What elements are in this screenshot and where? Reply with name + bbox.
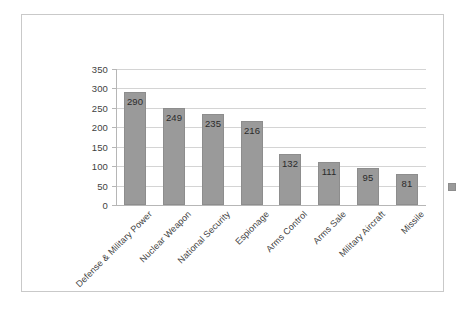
bar[interactable]: 132: [279, 154, 301, 205]
chart-frame: 2902492352161321119581 35030025020015010…: [21, 14, 444, 292]
bar[interactable]: 95: [357, 168, 379, 205]
x-axis-category-label: Arms Sale: [311, 209, 348, 246]
y-axis-tick-label: 150: [92, 142, 108, 153]
y-axis-tick-label: 300: [92, 83, 108, 94]
y-axis-tick-mark: [112, 166, 116, 167]
y-axis-tick-mark: [112, 108, 116, 109]
y-axis-tick-label: 100: [92, 161, 108, 172]
y-axis-tick-label: 0: [103, 200, 108, 211]
x-axis-category-labels: Defense & Military PowerNuclear WeaponNa…: [116, 209, 426, 299]
plot-area: 2902492352161321119581: [116, 69, 426, 205]
legend-color-swatch: [448, 183, 456, 191]
bar-value-label: 216: [242, 125, 262, 136]
gridline: [116, 69, 426, 70]
bar-value-label: 81: [397, 178, 417, 189]
y-axis-line: [116, 69, 117, 206]
y-axis-tick-label: 200: [92, 122, 108, 133]
y-axis-tick-mark: [112, 186, 116, 187]
bar-value-label: 290: [125, 96, 145, 107]
y-axis-tick-mark: [112, 147, 116, 148]
bar-value-label: 95: [358, 172, 378, 183]
gridline: [116, 88, 426, 89]
y-axis-tick-mark: [112, 88, 116, 89]
bar-value-label: 111: [319, 166, 339, 177]
y-axis-tick-label: 250: [92, 103, 108, 114]
x-axis-category-label: Espionage: [233, 209, 271, 247]
y-axis-tick-mark: [112, 127, 116, 128]
x-axis-baseline: [116, 205, 426, 206]
bar-value-label: 132: [280, 158, 300, 169]
bar-value-label: 249: [164, 112, 184, 123]
bar-value-label: 235: [203, 118, 223, 129]
y-axis-tick-label: 350: [92, 64, 108, 75]
y-axis-tick-label: 50: [97, 181, 108, 192]
bar[interactable]: 111: [318, 162, 340, 205]
y-axis-tick-mark: [112, 205, 116, 206]
bar[interactable]: 290: [124, 92, 146, 205]
y-axis-tick-mark: [112, 69, 116, 70]
bar[interactable]: 249: [163, 108, 185, 205]
bar[interactable]: 235: [202, 114, 224, 205]
bar[interactable]: 81: [396, 174, 418, 205]
bar[interactable]: 216: [241, 121, 263, 205]
x-axis-category-label: Missile: [399, 209, 426, 236]
